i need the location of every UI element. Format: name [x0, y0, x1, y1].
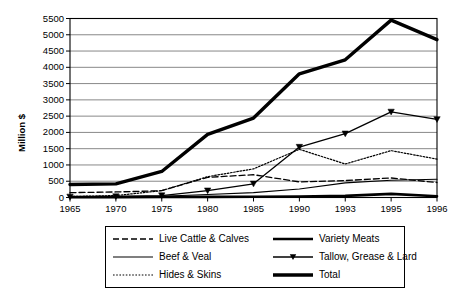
legend-label: Tallow, Grease & Lard [319, 252, 417, 262]
series-line-total [70, 20, 437, 184]
legend-item-tallow-grease-lard[interactable]: Tallow, Grease & Lard [272, 251, 412, 263]
legend-label: Live Cattle & Calves [159, 234, 249, 244]
legend: Live Cattle & CalvesVariety MeatsBeef & … [105, 226, 405, 288]
legend-swatch-icon [112, 233, 154, 245]
plot-frame [70, 19, 437, 198]
legend-swatch-icon [272, 269, 314, 281]
legend-swatch-icon [272, 251, 314, 263]
legend-label: Variety Meats [319, 234, 379, 244]
legend-swatch-icon [112, 251, 154, 263]
legend-label: Total [319, 270, 340, 280]
line-chart: Million $ 050010001500200025003000350040… [0, 0, 453, 301]
legend-item-live-cattle-calves[interactable]: Live Cattle & Calves [112, 233, 272, 245]
legend-label: Hides & Skins [159, 270, 221, 280]
legend-item-variety-meats[interactable]: Variety Meats [272, 233, 412, 245]
legend-swatch-icon [112, 269, 154, 281]
legend-swatch-icon [272, 233, 314, 245]
series-line-hides-skins [70, 149, 437, 196]
legend-item-beef-veal[interactable]: Beef & Veal [112, 251, 272, 263]
legend-item-hides-skins[interactable]: Hides & Skins [112, 269, 272, 281]
legend-label: Beef & Veal [159, 252, 211, 262]
legend-item-total[interactable]: Total [272, 269, 412, 281]
